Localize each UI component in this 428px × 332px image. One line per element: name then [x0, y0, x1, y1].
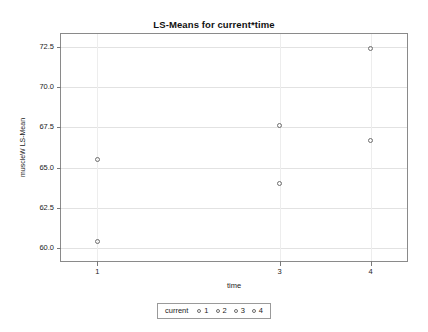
x-axis-label: time — [60, 281, 408, 290]
data-point-marker — [368, 138, 373, 143]
legend-circle-icon — [234, 309, 238, 313]
legend-entry[interactable]: 3 — [234, 306, 245, 315]
y-axis-label: muscleW LS-Mean — [17, 33, 29, 262]
y-tick-label: 60.0 — [14, 243, 54, 252]
y-tick-mark — [57, 208, 61, 209]
legend-box: current 1234 — [157, 303, 271, 319]
y-gridline — [61, 168, 407, 169]
x-tick-label: 3 — [265, 267, 295, 276]
y-gridline — [61, 47, 407, 48]
plot-area: 134 — [61, 34, 407, 261]
x-tick-mark — [280, 261, 281, 266]
legend-circle-icon — [216, 309, 220, 313]
y-tick-label: 67.5 — [14, 122, 54, 131]
x-tick-label: 4 — [356, 267, 386, 276]
y-tick-label: 62.5 — [14, 202, 54, 211]
data-point-marker — [277, 181, 282, 186]
data-point-marker — [95, 239, 100, 244]
legend-entry-label: 2 — [223, 306, 227, 315]
x-tick-label: 1 — [82, 267, 112, 276]
legend-entry[interactable]: 2 — [216, 306, 227, 315]
legend-entry-label: 3 — [241, 306, 245, 315]
legend-entry-label: 4 — [259, 306, 263, 315]
y-tick-mark — [57, 87, 61, 88]
y-tick-mark — [57, 47, 61, 48]
y-gridline — [61, 87, 407, 88]
legend-entry[interactable]: 4 — [252, 306, 263, 315]
y-tick-label: 72.5 — [14, 41, 54, 50]
x-gridline — [371, 34, 372, 261]
y-tick-label: 65.0 — [14, 162, 54, 171]
y-gridline — [61, 208, 407, 209]
x-gridline — [280, 34, 281, 261]
x-tick-mark — [97, 261, 98, 266]
data-point-marker — [95, 157, 100, 162]
chart-title: LS-Means for current*time — [0, 19, 428, 30]
legend-title: current — [165, 306, 188, 315]
legend-circle-icon — [197, 309, 201, 313]
y-tick-mark — [57, 127, 61, 128]
y-gridline — [61, 248, 407, 249]
chart-figure: LS-Means for current*time muscleW LS-Mea… — [0, 0, 428, 332]
y-tick-mark — [57, 168, 61, 169]
legend-circle-icon — [252, 309, 256, 313]
x-gridline — [97, 34, 98, 261]
y-tick-label: 70.0 — [14, 82, 54, 91]
legend-entry[interactable]: 1 — [197, 306, 208, 315]
data-point-marker — [368, 46, 373, 51]
y-tick-mark — [57, 248, 61, 249]
plot-frame: 134 — [60, 33, 408, 262]
y-gridline — [61, 127, 407, 128]
legend-entry-label: 1 — [204, 306, 208, 315]
x-tick-mark — [371, 261, 372, 266]
legend: current 1234 — [0, 303, 428, 319]
